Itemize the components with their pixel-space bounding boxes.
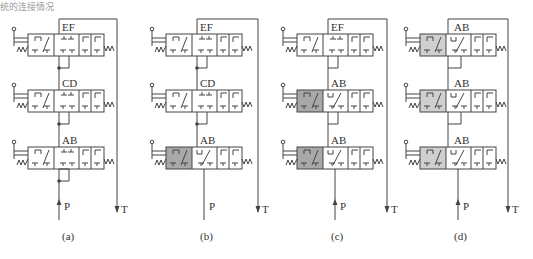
spring-left-icon	[155, 159, 166, 165]
spring-left-icon	[17, 102, 28, 108]
valve-label: AB	[200, 134, 215, 146]
spring-left-icon	[409, 159, 420, 165]
panel-caption-d: (d)	[454, 230, 467, 243]
spring-left-icon	[286, 159, 297, 165]
spring-right-icon	[242, 102, 252, 107]
p-port-label: P	[209, 200, 215, 212]
t-arrow-icon	[506, 206, 511, 213]
pilot-port-icon	[12, 83, 16, 87]
valve-label: CD	[200, 77, 215, 89]
spring-left-icon	[286, 46, 297, 52]
panel-caption-a: (a)	[62, 230, 75, 243]
p-port-label: P	[463, 200, 469, 212]
valve-ab-3: AB	[12, 134, 114, 169]
spring-right-icon	[373, 46, 383, 51]
pilot-port-icon	[150, 83, 154, 87]
t-arrow-icon	[256, 206, 261, 213]
valve-label: AB	[62, 134, 77, 146]
panel-b: TEFCDABP(b)	[150, 19, 269, 243]
panel-c: TEFABABP(c)	[281, 19, 398, 243]
pilot-port-icon	[281, 140, 285, 144]
pilot-port-icon	[404, 140, 408, 144]
valve-label: AB	[331, 77, 346, 89]
panel-d: TABABABP(d)	[404, 19, 519, 243]
hydraulic-circuit-diagram: TEFCDABP(a)TEFCDABP(b)TEFABABP(c)TABABAB…	[0, 0, 533, 259]
t-port-label: T	[391, 203, 398, 215]
t-port-label: T	[121, 203, 128, 215]
valve-label: AB	[454, 77, 469, 89]
pilot-port-icon	[12, 140, 16, 144]
valve-ab-3: AB	[404, 134, 506, 169]
pilot-port-icon	[404, 83, 408, 87]
panel-a: TEFCDABP(a)	[12, 19, 128, 243]
valve-label: EF	[331, 21, 344, 33]
spring-right-icon	[373, 159, 383, 164]
p-arrow-icon	[57, 199, 62, 205]
spring-left-icon	[155, 46, 166, 52]
p-arrow-icon	[333, 199, 338, 205]
spring-left-icon	[17, 159, 28, 165]
spring-left-icon	[155, 102, 166, 108]
pilot-port-icon	[150, 27, 154, 31]
t-port-label: T	[512, 203, 519, 215]
valve-ab-3: AB	[150, 134, 252, 169]
spring-left-icon	[409, 46, 420, 52]
t-port-label: T	[262, 203, 269, 215]
spring-right-icon	[104, 159, 114, 164]
spring-right-icon	[496, 159, 506, 164]
valve-label: CD	[62, 77, 77, 89]
spring-left-icon	[409, 102, 420, 108]
p-arrow-icon	[456, 199, 461, 205]
p-port-label: P	[64, 200, 70, 212]
t-arrow-icon	[115, 206, 120, 213]
spring-right-icon	[242, 46, 252, 51]
panel-caption-c: (c)	[331, 230, 344, 243]
spring-right-icon	[104, 46, 114, 51]
pilot-port-icon	[150, 140, 154, 144]
pilot-port-icon	[12, 27, 16, 31]
valve-label: EF	[200, 21, 213, 33]
p-port-label: P	[340, 200, 346, 212]
spring-right-icon	[373, 102, 383, 107]
panel-caption-b: (b)	[200, 230, 213, 243]
spring-right-icon	[104, 102, 114, 107]
valve-label: AB	[454, 134, 469, 146]
pilot-port-icon	[404, 27, 408, 31]
spring-right-icon	[496, 102, 506, 107]
spring-left-icon	[17, 46, 28, 52]
pilot-port-icon	[281, 83, 285, 87]
valve-ab-3: AB	[281, 134, 383, 169]
t-arrow-icon	[385, 206, 390, 213]
spring-right-icon	[496, 46, 506, 51]
valve-label: AB	[454, 21, 469, 33]
valve-label: EF	[62, 21, 75, 33]
valve-label: AB	[331, 134, 346, 146]
spring-left-icon	[286, 102, 297, 108]
spring-right-icon	[242, 159, 252, 164]
pilot-port-icon	[281, 27, 285, 31]
